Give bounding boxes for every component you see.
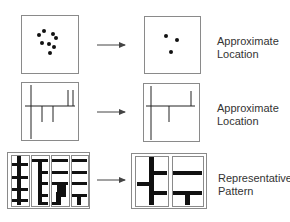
pattern-bar (12, 176, 28, 179)
pattern-bar (12, 188, 28, 191)
pattern-bar (56, 192, 61, 203)
point-dot (175, 38, 179, 42)
point-dot (42, 29, 46, 33)
label-line: Approximate (217, 102, 279, 115)
pattern-bar (72, 159, 87, 162)
pattern-bar (12, 163, 28, 166)
source-box-frame (22, 83, 79, 141)
point-dot (40, 41, 44, 45)
point-dot (37, 33, 41, 37)
pattern-bar (149, 157, 154, 205)
pattern-bar (52, 171, 68, 174)
pattern-bar (38, 159, 42, 204)
pattern-bar (32, 159, 48, 162)
pattern-bar (38, 171, 48, 174)
row-approximate-location-points (22, 16, 201, 74)
pattern-bar (77, 194, 81, 205)
pattern-bar (153, 171, 167, 175)
label-line: Representative (218, 172, 290, 185)
pattern-bar (185, 193, 190, 205)
pattern-bar (38, 182, 48, 185)
point-dot (47, 42, 51, 46)
pattern-bar (72, 171, 87, 174)
pattern-bar (52, 159, 68, 162)
label-line: Approximate (217, 35, 279, 48)
result-box-frame (145, 17, 201, 74)
pattern-bar (52, 202, 61, 205)
row-representative-pattern (8, 153, 207, 209)
label-line: Pattern (218, 185, 290, 198)
point-dot (48, 51, 52, 55)
point-dot (52, 45, 56, 49)
pattern-bar (38, 202, 48, 205)
pattern-bar (12, 199, 28, 202)
pattern-bar (173, 171, 202, 175)
point-dot (164, 34, 168, 38)
point-dot (169, 50, 173, 54)
pattern-bar (137, 182, 150, 186)
row-approximate-location-lines (22, 83, 200, 142)
label-line: Location (217, 48, 279, 61)
pattern-bar (72, 182, 87, 185)
label-line: Location (217, 115, 279, 128)
point-dot (54, 36, 58, 40)
point-dot (51, 32, 55, 36)
pattern-bar (153, 191, 167, 195)
label-approximate-location-2: Approximate Location (217, 102, 279, 128)
pattern-bar (38, 194, 48, 197)
label-representative-pattern: Representative Pattern (218, 172, 290, 198)
label-approximate-location-1: Approximate Location (217, 35, 279, 61)
